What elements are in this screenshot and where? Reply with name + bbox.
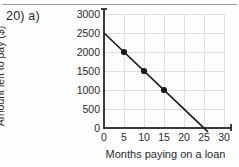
loan-balance-line-chart: 050010001500200025003000 051015202530 Am… — [0, 0, 239, 167]
data-series-layer — [0, 0, 239, 167]
worksheet-page: 20) a) 050010001500200025003000 05101520… — [0, 0, 239, 167]
trend-line — [104, 33, 208, 132]
data-point-marker — [161, 87, 167, 93]
data-point-marker — [141, 68, 147, 74]
data-point-marker — [121, 49, 127, 55]
